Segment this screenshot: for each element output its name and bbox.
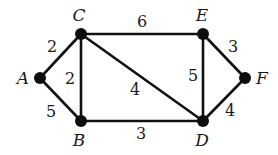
edge-weight-c-d: 4 [130,80,140,99]
node-d [197,115,209,127]
node-label-f: F [255,68,269,88]
graph-svg: 252643534 ABCDEF [0,0,278,155]
edge-weight-c-e: 6 [137,12,147,31]
graph-diagram: 252643534 ABCDEF [0,0,278,155]
node-label-b: B [72,130,86,150]
edge-weight-a-c: 2 [47,37,57,56]
edge-weight-e-f: 3 [228,37,238,56]
edge-c-d [81,34,203,121]
edge-weight-b-d: 3 [136,124,146,143]
node-label-c: C [72,5,85,25]
edge-e-f [203,34,245,78]
edge-weight-f-d: 4 [225,101,235,120]
node-label-a: A [15,68,29,88]
node-label-d: D [194,130,209,150]
edge-weight-a-b: 5 [46,102,56,121]
node-b [75,115,87,127]
edge-weight-e-d: 5 [188,66,198,85]
node-label-e: E [195,5,209,25]
edge-weight-c-b: 2 [65,69,75,88]
node-f [239,72,251,84]
node-c [75,28,87,40]
node-a [34,72,46,84]
node-e [197,28,209,40]
